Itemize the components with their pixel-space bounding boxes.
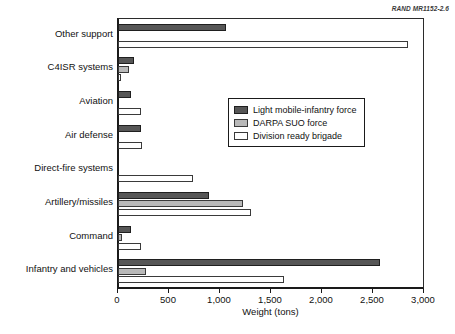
x-tick-mark xyxy=(219,289,220,293)
source-note: RAND MR1152-2.6 xyxy=(392,5,449,12)
bar xyxy=(118,74,121,81)
bar-group xyxy=(118,254,424,288)
bar-group xyxy=(118,221,424,255)
legend-item: DARPA SUO force xyxy=(234,116,357,129)
x-tick-mark xyxy=(423,289,424,293)
bar-group xyxy=(118,154,424,188)
bar xyxy=(118,142,142,149)
y-axis-label: Air defense xyxy=(0,129,113,140)
bar xyxy=(118,268,146,275)
bar xyxy=(118,200,243,207)
chart-legend: Light mobile-infantry forceDARPA SUO for… xyxy=(228,98,365,147)
bar-group xyxy=(118,53,424,87)
legend-item: Light mobile-infantry force xyxy=(234,103,357,116)
legend-label: Division ready brigade xyxy=(253,131,342,141)
bars-container xyxy=(118,19,424,288)
bar xyxy=(118,243,141,250)
x-tick-mark xyxy=(270,289,271,293)
bar-chart-figure: RAND MR1152-2.6 Other supportC4ISR syste… xyxy=(0,0,455,334)
y-axis-label: Other support xyxy=(0,28,113,39)
x-tick-label: 1,000 xyxy=(207,294,231,305)
bar xyxy=(118,276,284,283)
legend-item: Division ready brigade xyxy=(234,129,357,142)
bar xyxy=(118,24,226,31)
y-axis-label: Command xyxy=(0,230,113,241)
bar xyxy=(118,226,131,233)
y-axis-labels: Other supportC4ISR systemsAviationAir de… xyxy=(0,18,113,289)
legend-swatch-icon xyxy=(234,106,248,114)
bar xyxy=(118,192,209,199)
bar xyxy=(118,57,134,64)
x-tick-label: 2,000 xyxy=(309,294,333,305)
x-tick-mark xyxy=(117,289,118,293)
legend-label: DARPA SUO force xyxy=(253,118,327,128)
x-tick-label: 500 xyxy=(160,294,176,305)
bar xyxy=(118,91,131,98)
x-axis-title: Weight (tons) xyxy=(117,306,424,317)
bar xyxy=(118,234,122,241)
bar xyxy=(118,108,141,115)
legend-swatch-icon xyxy=(234,119,248,127)
bar xyxy=(118,175,193,182)
x-tick-label: 1,500 xyxy=(258,294,282,305)
y-axis-label: Aviation xyxy=(0,95,113,106)
x-tick-mark xyxy=(321,289,322,293)
bar xyxy=(118,41,408,48)
y-axis-label: Artillery/missiles xyxy=(0,196,113,207)
x-tick-label: 3,000 xyxy=(411,294,435,305)
y-axis-label: Infantry and vehicles xyxy=(0,263,113,274)
legend-swatch-icon xyxy=(234,132,248,140)
legend-label: Light mobile-infantry force xyxy=(253,105,357,115)
y-axis-label: C4ISR systems xyxy=(0,61,113,72)
y-axis-label: Direct-fire systems xyxy=(0,162,113,173)
bar-group xyxy=(118,187,424,221)
bar xyxy=(118,209,251,216)
bar xyxy=(118,125,141,132)
x-tick-label: 0 xyxy=(114,294,119,305)
bar xyxy=(118,66,129,73)
x-tick-label: 2,500 xyxy=(360,294,384,305)
bar xyxy=(118,259,380,266)
x-tick-mark xyxy=(372,289,373,293)
x-tick-mark xyxy=(168,289,169,293)
bar-group xyxy=(118,19,424,53)
